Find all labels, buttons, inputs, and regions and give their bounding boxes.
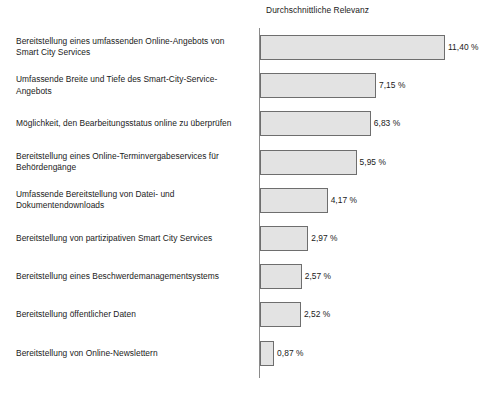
bar-row: Bereitstellung von Online-Newslettern0,8… — [0, 341, 497, 367]
bar-row: Bereitstellung eines Online-Terminvergab… — [0, 150, 497, 176]
bar-rect — [260, 226, 308, 251]
bar-category-label-line2: Dokumentendownloads — [16, 200, 104, 210]
bar-row: Umfassende Breite und Tiefe des Smart-Ci… — [0, 73, 497, 99]
bar-rect — [260, 35, 445, 60]
bar-rect — [260, 111, 371, 136]
bar-row: Bereitstellung eines umfassenden Online-… — [0, 35, 497, 61]
bar-category-label-line2: Smart City Services — [16, 47, 90, 57]
bar-category-label-line2: Behördengänge — [16, 162, 76, 172]
bar-category-label-line2: Angebots — [16, 86, 52, 96]
bar-row: Bereitstellung eines Beschwerdemanagemen… — [0, 264, 497, 290]
bar-value-label: 5,95 % — [360, 157, 386, 168]
bar-rect — [260, 341, 274, 366]
bar-row: Bereitstellung öffentlicher Daten2,52 % — [0, 302, 497, 328]
bar-category-label: Bereitstellung von Online-Newslettern — [16, 348, 254, 359]
bar-category-label: Umfassende Breite und Tiefe des Smart-Ci… — [16, 74, 254, 97]
bar-value-label: 6,83 % — [374, 118, 400, 129]
bar-category-label: Möglichkeit, den Bearbeitungsstatus onli… — [16, 118, 254, 129]
bar-value-label: 2,57 % — [305, 271, 331, 282]
bar-rect — [260, 73, 376, 98]
bar-category-label: Bereitstellung von partizipativen Smart … — [16, 233, 254, 244]
bar-category-label: Bereitstellung eines Beschwerdemanagemen… — [16, 271, 254, 282]
bar-row: Möglichkeit, den Bearbeitungsstatus onli… — [0, 111, 497, 137]
bar-rect — [260, 302, 301, 327]
plot-area: Bereitstellung eines umfassenden Online-… — [0, 0, 497, 398]
bar-value-label: 2,97 % — [311, 233, 337, 244]
bar-category-label: Bereitstellung öffentlicher Daten — [16, 309, 254, 320]
bar-category-label: Bereitstellung eines Online-Terminvergab… — [16, 151, 254, 174]
bar-row: Umfassende Bereitstellung von Datei- und… — [0, 188, 497, 214]
bar-rect — [260, 188, 328, 213]
bar-value-label: 7,15 % — [379, 80, 405, 91]
bar-value-label: 0,87 % — [277, 348, 303, 359]
bar-value-label: 2,52 % — [304, 309, 330, 320]
bar-value-label: 11,40 % — [448, 42, 478, 53]
bar-category-label: Umfassende Bereitstellung von Datei- und… — [16, 189, 254, 212]
bar-rect — [260, 150, 357, 175]
bar-rect — [260, 264, 302, 289]
bar-chart: Durchschnittliche Relevanz Bereitstellun… — [0, 0, 497, 398]
bar-row: Bereitstellung von partizipativen Smart … — [0, 226, 497, 252]
bar-value-label: 4,17 % — [331, 195, 357, 206]
bar-category-label: Bereitstellung eines umfassenden Online-… — [16, 36, 254, 59]
